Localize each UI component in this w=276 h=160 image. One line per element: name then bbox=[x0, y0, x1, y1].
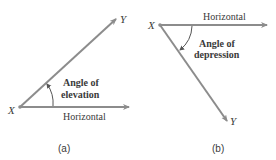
angle-label-b-line1: Angle of bbox=[199, 38, 236, 49]
end-label-a: Y bbox=[120, 13, 128, 25]
angle-diagram: X Y Angle of elevation Horizontal (a) X … bbox=[0, 0, 276, 160]
elevation-arc-icon bbox=[47, 84, 53, 106]
panel-a-elevation: X Y Angle of elevation Horizontal (a) bbox=[7, 13, 129, 154]
angle-label-a-line2: elevation bbox=[61, 89, 100, 100]
panel-b-depression: X Y Angle of depression Horizontal (b) bbox=[147, 11, 267, 154]
vertex-label-b: X bbox=[147, 19, 156, 31]
caption-a: (a) bbox=[58, 143, 70, 154]
end-label-b: Y bbox=[230, 115, 238, 127]
horizontal-label-a: Horizontal bbox=[63, 111, 106, 122]
horizontal-label-b: Horizontal bbox=[203, 11, 246, 22]
vertex-point-b bbox=[158, 23, 162, 27]
vertex-point-a bbox=[18, 105, 22, 109]
caption-b: (b) bbox=[212, 143, 224, 154]
vertex-label-a: X bbox=[7, 104, 16, 116]
angle-label-b-line2: depression bbox=[194, 49, 240, 60]
angle-label-a-line1: Angle of bbox=[63, 77, 100, 88]
depression-arc-icon bbox=[180, 26, 192, 50]
